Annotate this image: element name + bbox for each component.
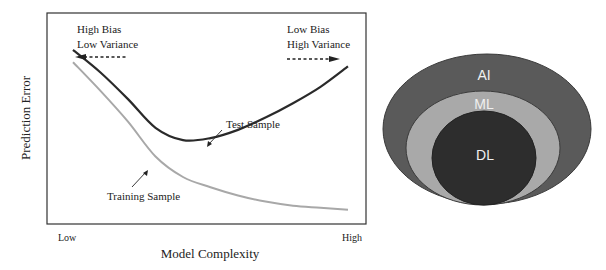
arrow-left-icon (75, 54, 126, 60)
pointer-arrow-training (132, 170, 148, 187)
arrow-right-icon (287, 56, 340, 62)
x-tick-low: Low (58, 232, 77, 243)
annotation-low-variance: Low Variance (77, 38, 138, 50)
venn-set-dl (432, 111, 536, 205)
y-axis-label: Prediction Error (18, 75, 33, 160)
x-tick-high: High (342, 232, 362, 243)
venn-set-ml (406, 91, 560, 205)
annotation-high-bias: High Bias (77, 23, 121, 35)
annotation-low-bias: Low Bias (287, 23, 329, 35)
venn-label-ml: ML (474, 96, 494, 112)
annotation-high-variance: High Variance (287, 38, 350, 50)
label-training-sample: Training Sample (107, 190, 180, 202)
x-axis-label: Model Complexity (161, 246, 260, 261)
venn-label-ai: AI (477, 67, 490, 83)
venn-set-ai (383, 54, 591, 204)
bias-variance-chart: High Bias Low Variance Low Bias High Var… (0, 0, 380, 270)
venn-label-dl: DL (476, 147, 494, 163)
label-test-sample: Test Sample (226, 118, 280, 130)
series-line-test-sample (73, 50, 348, 141)
